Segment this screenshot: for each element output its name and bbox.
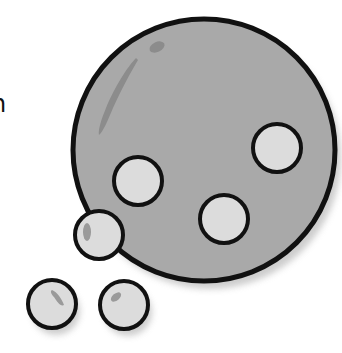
sphere-hole [200,195,248,243]
bubble-highlight [83,223,91,241]
bubble [100,281,148,329]
sphere-illustration [0,0,342,353]
bubble [28,280,76,328]
sphere-hole [253,124,301,172]
sphere-hole [114,157,162,205]
bubble [75,211,123,259]
illustration-stage: n [0,0,342,353]
